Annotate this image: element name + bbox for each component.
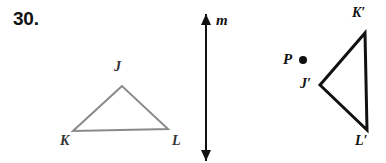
vertex-label-K-prime: K′ xyxy=(352,6,365,20)
triangle-JKL-shape xyxy=(73,86,168,131)
vertex-label-J-prime: J′ xyxy=(300,77,311,91)
line-m-top-arrowhead xyxy=(201,14,211,25)
vertex-label-K: K xyxy=(60,134,69,148)
figure-canvas xyxy=(0,0,386,163)
line-m-bottom-arrowhead xyxy=(201,150,211,161)
line-m-label: m xyxy=(216,13,228,28)
point-P-label: P xyxy=(283,52,292,67)
vertex-label-L-prime: L′ xyxy=(355,134,368,148)
vertex-label-J: J xyxy=(114,60,121,74)
vertex-label-L: L xyxy=(172,134,181,148)
geometry-figure: 30. J K L m P J′ K′ L′ xyxy=(0,0,386,163)
point-P-dot xyxy=(299,56,307,64)
triangle-J-prime-K-prime-L-prime-shape xyxy=(320,33,367,130)
